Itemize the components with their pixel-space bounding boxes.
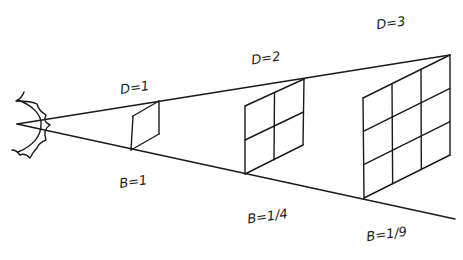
distance-label-1: D=1: [119, 78, 150, 97]
distance-label-2: D=2: [250, 49, 281, 68]
grid-line-vertical: [392, 84, 393, 184]
brightness-label-2: B=1/4: [246, 206, 288, 227]
plane-distance-1: [131, 101, 159, 150]
distance-label-3: D=3: [375, 13, 406, 32]
inverse-square-diagram: D=1 B=1 D=2 B=1/4 D=3 B=1/9: [0, 0, 463, 260]
plane-edge-left: [131, 116, 133, 150]
plane-edge-bottom: [364, 155, 450, 198]
brightness-label-1: B=1: [118, 172, 148, 191]
plane-edge-left: [363, 98, 364, 198]
brightness-label-3: B=1/9: [365, 224, 407, 245]
sun-icon: [12, 92, 50, 158]
plane-distance-2: [245, 79, 304, 174]
plane-edge-bottom: [131, 134, 159, 150]
sun-rays-outline: [12, 92, 50, 158]
lower-ray: [17, 124, 455, 219]
upper-ray: [17, 55, 450, 124]
sun-inner-arc: [18, 100, 41, 152]
grid-line-horizontal: [364, 122, 450, 165]
grid-line-horizontal: [363, 88, 450, 131]
plane-distance-3: [363, 55, 450, 198]
